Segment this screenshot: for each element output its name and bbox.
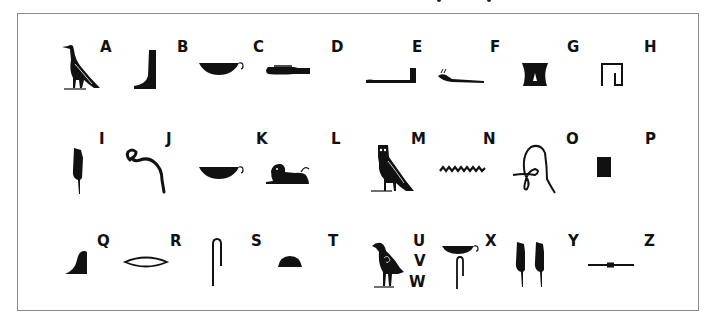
letter-e: E	[412, 40, 422, 55]
letter-b: B	[177, 40, 188, 55]
letter-q: Q	[97, 234, 110, 249]
double-reed-icon	[515, 242, 547, 288]
cropped-mark	[437, 0, 441, 2]
letter-h: H	[644, 40, 657, 55]
letter-l: L	[331, 132, 341, 147]
basket-icon	[199, 167, 245, 181]
letter-n: N	[483, 132, 496, 147]
stool-icon	[597, 157, 611, 177]
foot-icon	[134, 50, 158, 90]
door-bolt-icon	[588, 262, 634, 268]
quail-chick-icon	[372, 242, 406, 288]
letter-o: O	[566, 132, 579, 147]
letter-i: I	[99, 132, 105, 147]
letter-t: T	[328, 234, 338, 249]
letter-u: U	[413, 234, 425, 249]
letter-r: R	[170, 234, 182, 249]
letter-w: W	[409, 275, 426, 290]
letter-v: V	[414, 254, 426, 269]
cropped-mark	[487, 0, 491, 2]
letter-s: S	[251, 234, 262, 249]
twisted-flax-icon	[511, 143, 555, 193]
basket-and-cloth-icon	[442, 246, 478, 290]
cobra-icon	[124, 148, 172, 194]
letter-z: Z	[644, 234, 655, 249]
letter-k: K	[256, 132, 268, 147]
forearm-icon	[366, 68, 418, 84]
bread-loaf-icon	[278, 256, 302, 268]
reed-leaf-icon	[72, 148, 84, 194]
hill-slope-icon	[65, 250, 87, 274]
letter-c: C	[253, 40, 264, 55]
water-ripple-icon	[440, 164, 486, 174]
letter-d: D	[331, 40, 343, 55]
vulture-icon	[62, 44, 104, 90]
letter-j: J	[166, 132, 172, 147]
hand-icon	[264, 64, 310, 76]
folded-cloth-icon	[210, 238, 222, 286]
reed-shelter-icon	[601, 63, 625, 87]
basket-icon	[199, 63, 245, 77]
mouth-icon	[124, 255, 168, 269]
letter-f: F	[490, 40, 500, 55]
letter-y: Y	[568, 234, 579, 249]
letter-x: X	[485, 234, 497, 249]
letter-p: P	[645, 132, 656, 147]
letter-g: G	[567, 40, 579, 55]
stand-icon	[521, 63, 549, 87]
recumbent-lion-icon	[265, 163, 311, 185]
horned-viper-icon	[438, 68, 486, 84]
owl-icon	[370, 145, 416, 193]
